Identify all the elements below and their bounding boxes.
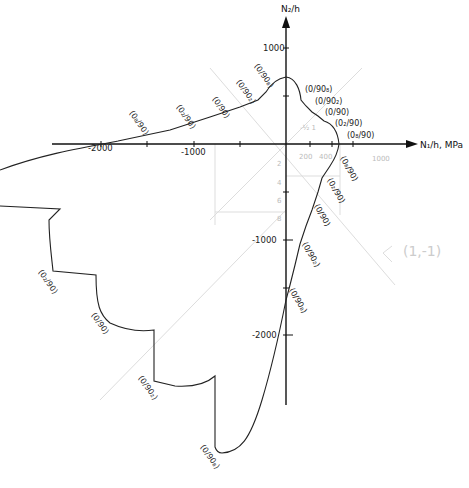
label-ur-5: (0₈/90) bbox=[347, 131, 374, 140]
faint-200: 200 bbox=[299, 153, 312, 161]
y-tick-1000: 1000 bbox=[263, 43, 285, 53]
label-ur-1: (0/90₈) bbox=[305, 85, 332, 94]
x-tick-m1000: -1000 bbox=[181, 147, 206, 157]
faint-400: 400 bbox=[319, 153, 332, 161]
y-axis-label: N₂/h bbox=[281, 4, 300, 14]
label-ur-2: (0/90₂) bbox=[315, 97, 342, 106]
label-ur-4: (0₂/90) bbox=[335, 119, 362, 128]
x-tick-m2000: -2000 bbox=[88, 143, 113, 153]
label-ll-2: (0/90) bbox=[89, 311, 110, 336]
faint-frac: -½ 1 bbox=[300, 124, 316, 132]
label-lr-3: (0/90) bbox=[312, 203, 332, 228]
faint-4: 4 bbox=[277, 179, 282, 187]
label-ul-5: (0₈/90) bbox=[127, 109, 150, 137]
label-ll-3: (0/90₂) bbox=[136, 374, 159, 402]
axes bbox=[52, 24, 410, 405]
label-ul-2: (0/90₂) bbox=[234, 78, 257, 106]
failure-envelope-chart: N₂/h N₁/h, MPa 1000 -1000 -2000 -1000 -2… bbox=[0, 0, 469, 488]
label-lr-2: (0₂/90) bbox=[325, 177, 347, 205]
faint-1000: 1000 bbox=[372, 155, 390, 163]
label-lr-1: (0₈/90) bbox=[338, 155, 360, 183]
label-ur-3: (0/90) bbox=[325, 108, 349, 117]
faint-construction-lines bbox=[100, 68, 395, 400]
failure-envelope-curve bbox=[0, 77, 339, 453]
x-axis-arrow-icon bbox=[406, 140, 418, 148]
label-lr-4: (0/90₂) bbox=[300, 241, 322, 269]
y-tick-m2000: -2000 bbox=[252, 330, 277, 340]
label-ll-4: (0/90₈) bbox=[198, 443, 221, 471]
y-axis-arrow-icon bbox=[282, 16, 290, 28]
faint-2: 2 bbox=[277, 160, 281, 168]
x-axis-label: N₁/h, MPa bbox=[420, 140, 463, 150]
faint-direction-label: (1,-1) bbox=[403, 243, 441, 259]
y-tick-m1000: -1000 bbox=[252, 235, 277, 245]
label-ll-1: (0₂/90) bbox=[36, 268, 59, 296]
faint-8: 8 bbox=[277, 215, 281, 223]
faint-6: 6 bbox=[277, 197, 282, 205]
label-lr-5: (0/90₈) bbox=[287, 287, 309, 315]
label-ul-1: (0/90₈) bbox=[252, 62, 275, 90]
label-ul-4: (0₂/90) bbox=[174, 103, 197, 131]
